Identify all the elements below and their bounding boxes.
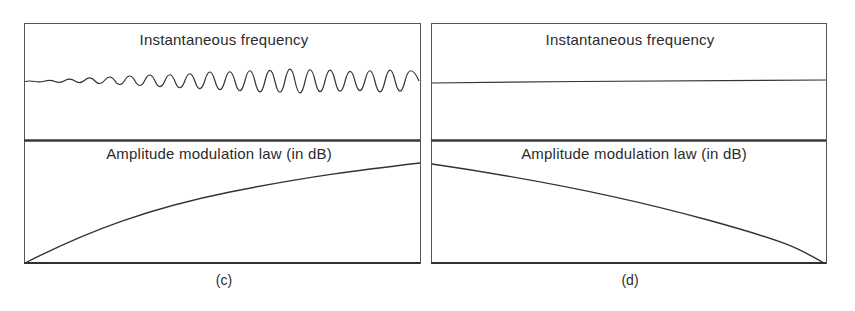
panel-d-caption: (d) [621, 272, 638, 288]
panel-c-amplitude-title: Amplitude modulation law (in dB) [106, 145, 332, 162]
panel-c-frame [25, 24, 421, 264]
panel-d-frequency-trace [432, 80, 826, 83]
panel-c-caption: (c) [216, 272, 232, 288]
panel-d-amplitude-title: Amplitude modulation law (in dB) [521, 145, 747, 162]
panel-c-frequency-trace [25, 69, 419, 93]
panel-d: Instantaneous frequency Amplitude modula… [428, 0, 855, 311]
panel-c: Instantaneous frequency Amplitude modula… [0, 0, 428, 311]
panel-d-amplitude-trace [432, 164, 824, 263]
panel-d-frame [432, 24, 827, 264]
panel-d-frequency-title: Instantaneous frequency [546, 31, 715, 48]
panel-c-amplitude-trace [25, 163, 420, 263]
panel-c-frequency-title: Instantaneous frequency [140, 31, 309, 48]
